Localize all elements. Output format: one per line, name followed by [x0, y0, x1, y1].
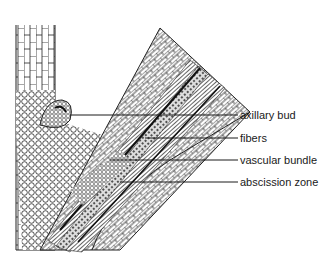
- label-vascular-bundle: vascular bundle: [240, 154, 317, 166]
- label-fibers: fibers: [240, 132, 267, 144]
- label-axillary-bud: axillary bud: [240, 109, 296, 121]
- botanical-diagram: axillary bud fibers vascular bundle absc…: [0, 0, 325, 269]
- label-abscission-zone: abscission zone: [240, 176, 318, 188]
- leaf-stem-section-drawing: [0, 0, 325, 269]
